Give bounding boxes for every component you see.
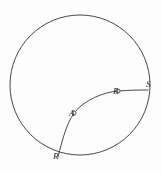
boundary-circle (10, 15, 150, 155)
point-label-r: R (53, 152, 59, 161)
point-label-b: B (113, 87, 119, 96)
arc-curve (58, 90, 148, 157)
geometry-figure: R A B S (0, 0, 162, 173)
point-label-s: S (146, 80, 151, 89)
figure-canvas (0, 0, 162, 173)
point-label-a: A (69, 109, 75, 118)
